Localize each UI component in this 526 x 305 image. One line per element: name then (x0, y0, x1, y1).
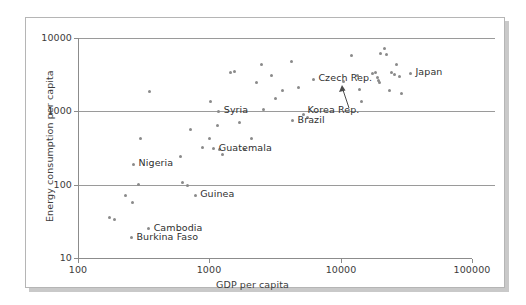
data-point-brazil (291, 119, 294, 122)
point-label-guatemala: Guatemala (219, 142, 272, 153)
data-point (208, 137, 211, 140)
data-point (148, 90, 151, 93)
y-tick-10000 (74, 38, 78, 39)
point-label-czech-rep: Czech Rep. (318, 72, 372, 83)
data-point (113, 218, 116, 221)
data-point (131, 201, 134, 204)
data-point-czech-rep (312, 78, 315, 81)
data-point (108, 216, 111, 219)
data-point (383, 47, 386, 50)
x-tick-100 (78, 259, 79, 263)
data-point (274, 97, 277, 100)
point-label-brazil: Brazil (298, 114, 325, 125)
y-tick-label-10: 10 (16, 252, 72, 263)
data-point-syria (217, 110, 220, 113)
data-point (186, 184, 189, 187)
data-point (139, 137, 142, 140)
data-point-burkina-faso (130, 236, 133, 239)
data-point (281, 89, 284, 92)
data-point (179, 155, 182, 158)
data-point (388, 89, 391, 92)
data-point (216, 124, 219, 127)
point-label-japan: Japan (415, 66, 442, 77)
figure-canvas: 10100100010000100100010000100000GDP per … (0, 0, 526, 305)
data-point (270, 74, 273, 77)
gridline-y-1000 (78, 111, 495, 112)
data-point (378, 81, 381, 84)
data-point (233, 70, 236, 73)
point-label-syria: Syria (224, 104, 249, 115)
data-point-japan (409, 72, 412, 75)
gridline-y-100 (78, 185, 495, 186)
data-point-nigeria (132, 163, 135, 166)
data-point (221, 153, 224, 156)
data-point (398, 75, 401, 78)
y-axis-line (78, 38, 79, 258)
data-point (229, 71, 232, 74)
point-label-guinea: Guinea (200, 188, 234, 199)
data-point (260, 63, 263, 66)
data-point (209, 100, 212, 103)
point-label-korea-rep: Korea Rep. (307, 104, 359, 115)
data-point (189, 128, 192, 131)
y-tick-1000 (74, 111, 78, 112)
x-tick-10000 (341, 259, 342, 263)
y-tick-100 (74, 185, 78, 186)
gridline-y-10000 (78, 38, 495, 39)
data-point (290, 60, 293, 63)
x-tick-label-10000: 10000 (301, 264, 381, 275)
x-tick-label-1000: 1000 (169, 264, 249, 275)
data-point (250, 137, 253, 140)
data-point (350, 54, 353, 57)
x-tick-label-100000: 100000 (432, 264, 512, 275)
data-point (181, 181, 184, 184)
data-point (297, 86, 300, 89)
data-point (360, 100, 363, 103)
y-tick-label-10000: 10000 (16, 32, 72, 43)
data-point (374, 71, 377, 74)
data-point (201, 146, 204, 149)
data-point (400, 92, 403, 95)
data-point (255, 81, 258, 84)
data-point (393, 73, 396, 76)
x-tick-label-100: 100 (38, 264, 118, 275)
data-point (395, 63, 398, 66)
point-label-nigeria: Nigeria (139, 157, 174, 168)
data-point (358, 88, 361, 91)
point-label-burkina-faso: Burkina Faso (136, 231, 198, 242)
x-tick-100000 (472, 259, 473, 263)
scatter-plot-area[interactable]: 10100100010000100100010000100000GDP per … (0, 0, 526, 305)
data-point (238, 121, 241, 124)
data-point (124, 194, 127, 197)
x-axis-title: GDP per capita (216, 279, 289, 290)
data-point (385, 53, 388, 56)
y-axis-title: Energy consumption per capita (44, 70, 55, 222)
x-axis-line (78, 258, 472, 259)
data-point-guatemala (212, 147, 215, 150)
data-point (379, 52, 382, 55)
x-tick-1000 (209, 259, 210, 263)
data-point-guinea (194, 194, 197, 197)
